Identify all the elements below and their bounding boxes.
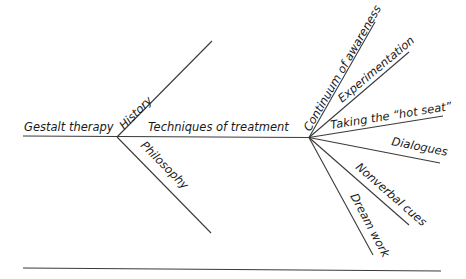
philosophy-label: Philosophy bbox=[138, 138, 192, 192]
fishbone-diagram: Gestalt therapy History Philosophy Techn… bbox=[0, 0, 466, 279]
techniques-label: Techniques of treatment bbox=[148, 120, 289, 134]
main-label: Gestalt therapy bbox=[24, 120, 114, 134]
bottom-rule bbox=[23, 268, 441, 271]
main-line bbox=[23, 136, 309, 138]
philosophy-line bbox=[117, 137, 211, 233]
